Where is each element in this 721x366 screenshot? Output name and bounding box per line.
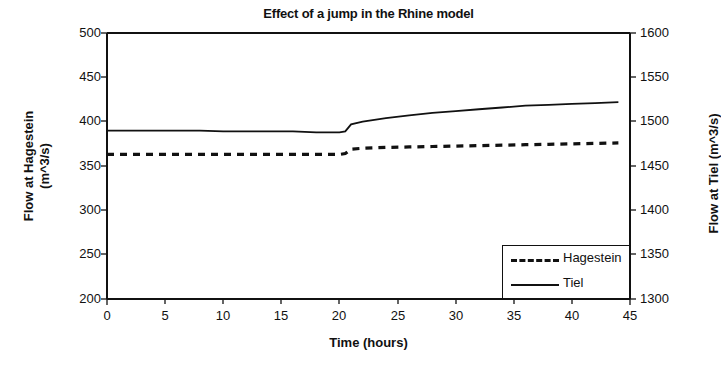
legend-swatch-dashed-icon — [511, 259, 559, 262]
legend-swatch-solid-icon — [511, 284, 559, 286]
y-axis-left-ticks — [101, 33, 107, 299]
legend[interactable]: Hagestein Tiel — [502, 245, 630, 299]
series-line-tiel — [107, 102, 618, 132]
legend-entry-tiel[interactable]: Tiel — [503, 272, 631, 298]
legend-label-hagestein: Hagestein — [563, 250, 622, 265]
x-axis-ticks — [107, 299, 630, 305]
legend-entry-hagestein[interactable]: Hagestein — [503, 247, 631, 273]
legend-label-tiel: Tiel — [563, 275, 583, 290]
series-line-hagestein — [107, 143, 618, 155]
